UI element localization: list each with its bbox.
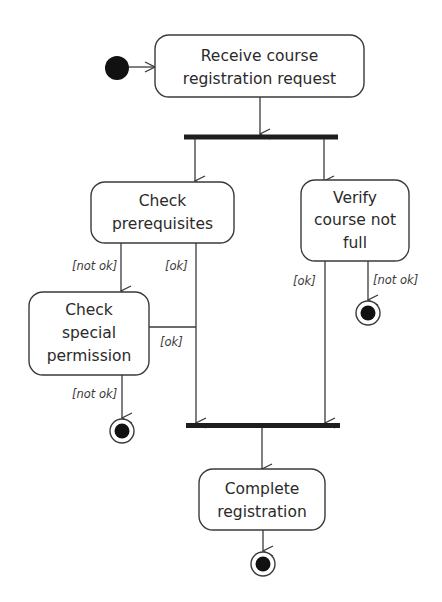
action-receive-request: Receive course registration request (155, 35, 364, 97)
final-node-special (110, 419, 134, 443)
check-prereq-line-2: prerequisites (112, 215, 213, 233)
verify-line-3: full (343, 234, 367, 252)
verify-line-1: Verify (333, 189, 377, 207)
special-line-3: permission (47, 347, 132, 365)
complete-line-1: Complete (225, 480, 300, 498)
guard-verify-not-ok: [not ok] (373, 273, 418, 287)
action-check-special-permission: Check special permission (29, 292, 149, 375)
join-bar (186, 423, 340, 428)
guard-prereq-ok: [ok] (165, 259, 188, 273)
complete-line-2: registration (217, 503, 306, 521)
final-node-complete (251, 552, 275, 576)
action-check-prerequisites: Check prerequisites (91, 182, 234, 243)
action-verify-course-not-full: Verify course not full (301, 180, 409, 261)
fork-bar (184, 135, 338, 140)
guard-special-ok: [ok] (160, 335, 183, 349)
guard-special-not-ok: [not ok] (72, 387, 117, 401)
receive-line-1: Receive course (201, 47, 318, 65)
guard-prereq-not-ok: [not ok] (72, 259, 117, 273)
activity-diagram: Receive course registration request Chec… (0, 0, 442, 602)
final-node-verify (356, 301, 380, 325)
initial-node (105, 56, 129, 80)
action-complete-registration: Complete registration (199, 469, 325, 530)
verify-line-2: course not (314, 211, 396, 229)
receive-line-2: registration request (183, 70, 336, 88)
guard-verify-ok: [ok] (293, 274, 316, 288)
special-line-2: special (62, 324, 116, 342)
special-line-1: Check (65, 301, 113, 319)
check-prereq-line-1: Check (139, 192, 187, 210)
